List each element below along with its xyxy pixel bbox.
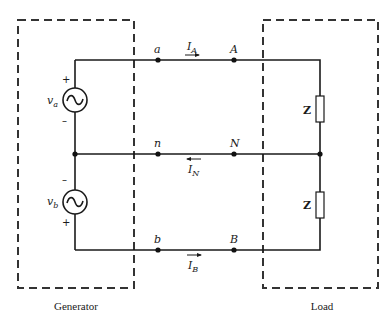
impedance-z1-label: Z: [303, 104, 311, 117]
current-in-label: IN: [187, 163, 200, 178]
node-n: [155, 151, 160, 156]
voltage-source-va: [63, 88, 87, 112]
node-B: [231, 247, 236, 252]
impedance-z2-label: Z: [303, 199, 311, 212]
impedance-z2: [316, 192, 324, 218]
current-ib-label: IB: [187, 259, 198, 274]
node-A: [231, 57, 236, 62]
node-a: [155, 57, 160, 62]
load-label: Load: [311, 300, 334, 312]
node-A-label: A: [229, 43, 238, 56]
vb-label: vb: [47, 195, 58, 210]
line-b-wire: [75, 218, 320, 250]
va-plus-sign: +: [62, 74, 70, 85]
node-b-label: b: [154, 233, 161, 246]
node-b: [155, 247, 160, 252]
arrowhead-icon: [197, 253, 202, 257]
node-n-label: n: [154, 137, 161, 150]
generator-label: Generator: [54, 300, 98, 312]
line-a-wire: [75, 60, 320, 96]
va-label: va: [47, 94, 58, 109]
circuit-diagram: + – va – + vb a A n N b B IA IN IB Z Z G…: [0, 0, 392, 323]
node-N: [231, 151, 236, 156]
node-N-label: N: [229, 137, 240, 150]
arrowhead-icon: [186, 157, 191, 161]
node-B-label: B: [229, 233, 238, 246]
node-a-label: a: [154, 43, 161, 56]
generator-neutral-junction: [72, 151, 77, 156]
va-minus-sign: –: [62, 115, 67, 126]
load-neutral-junction: [317, 151, 322, 156]
impedance-z1: [316, 96, 324, 122]
current-ia-label: IA: [186, 40, 197, 55]
vb-minus-sign: –: [62, 174, 67, 185]
vb-plus-sign: +: [62, 217, 70, 228]
voltage-source-vb: [63, 190, 87, 214]
